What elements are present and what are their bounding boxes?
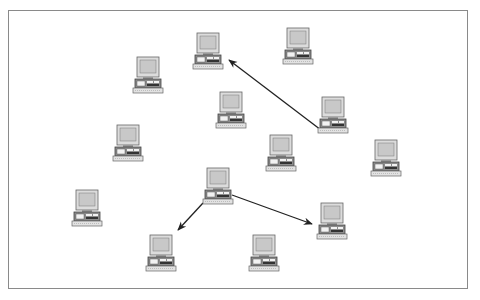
computer-node-pc-6 (113, 125, 143, 161)
computer-node-pc-5 (318, 97, 348, 133)
computer-node-pc-3 (133, 57, 163, 93)
computer-node-pc-8 (371, 140, 401, 176)
computer-node-pc-12 (146, 235, 176, 271)
arrow-pc-9-to-pc-12 (178, 203, 203, 230)
computer-node-pc-11 (317, 203, 347, 239)
computer-node-pc-7 (266, 135, 296, 171)
computer-node-pc-9 (203, 168, 233, 204)
computer-node-pc-10 (72, 190, 102, 226)
computer-node-pc-1 (193, 33, 223, 69)
computer-node-pc-13 (249, 235, 279, 271)
network-diagram (0, 0, 480, 300)
computer-node-pc-2 (283, 28, 313, 64)
computer-node-pc-4 (216, 92, 246, 128)
arrow-pc-9-to-pc-11 (232, 195, 312, 224)
